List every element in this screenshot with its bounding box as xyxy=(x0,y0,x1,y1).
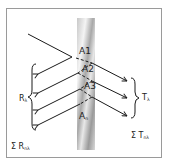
label-reflected: Rλ xyxy=(19,95,27,104)
label-a3: A3 xyxy=(84,82,96,91)
label-a2: A2 xyxy=(82,65,94,74)
label-sum-reflected: Σ Rnλ xyxy=(11,143,30,152)
label-an: An xyxy=(79,112,88,122)
label-transmitted: Tλ xyxy=(142,94,150,103)
incident-ray xyxy=(28,34,72,57)
transmitted-rays xyxy=(92,63,127,116)
reflected-rays xyxy=(38,57,80,125)
label-sum-transmitted: Σ Tnλ xyxy=(131,132,149,141)
label-a1: A1 xyxy=(79,47,91,56)
reflected-brace xyxy=(28,64,36,130)
transmitted-brace xyxy=(131,78,139,118)
